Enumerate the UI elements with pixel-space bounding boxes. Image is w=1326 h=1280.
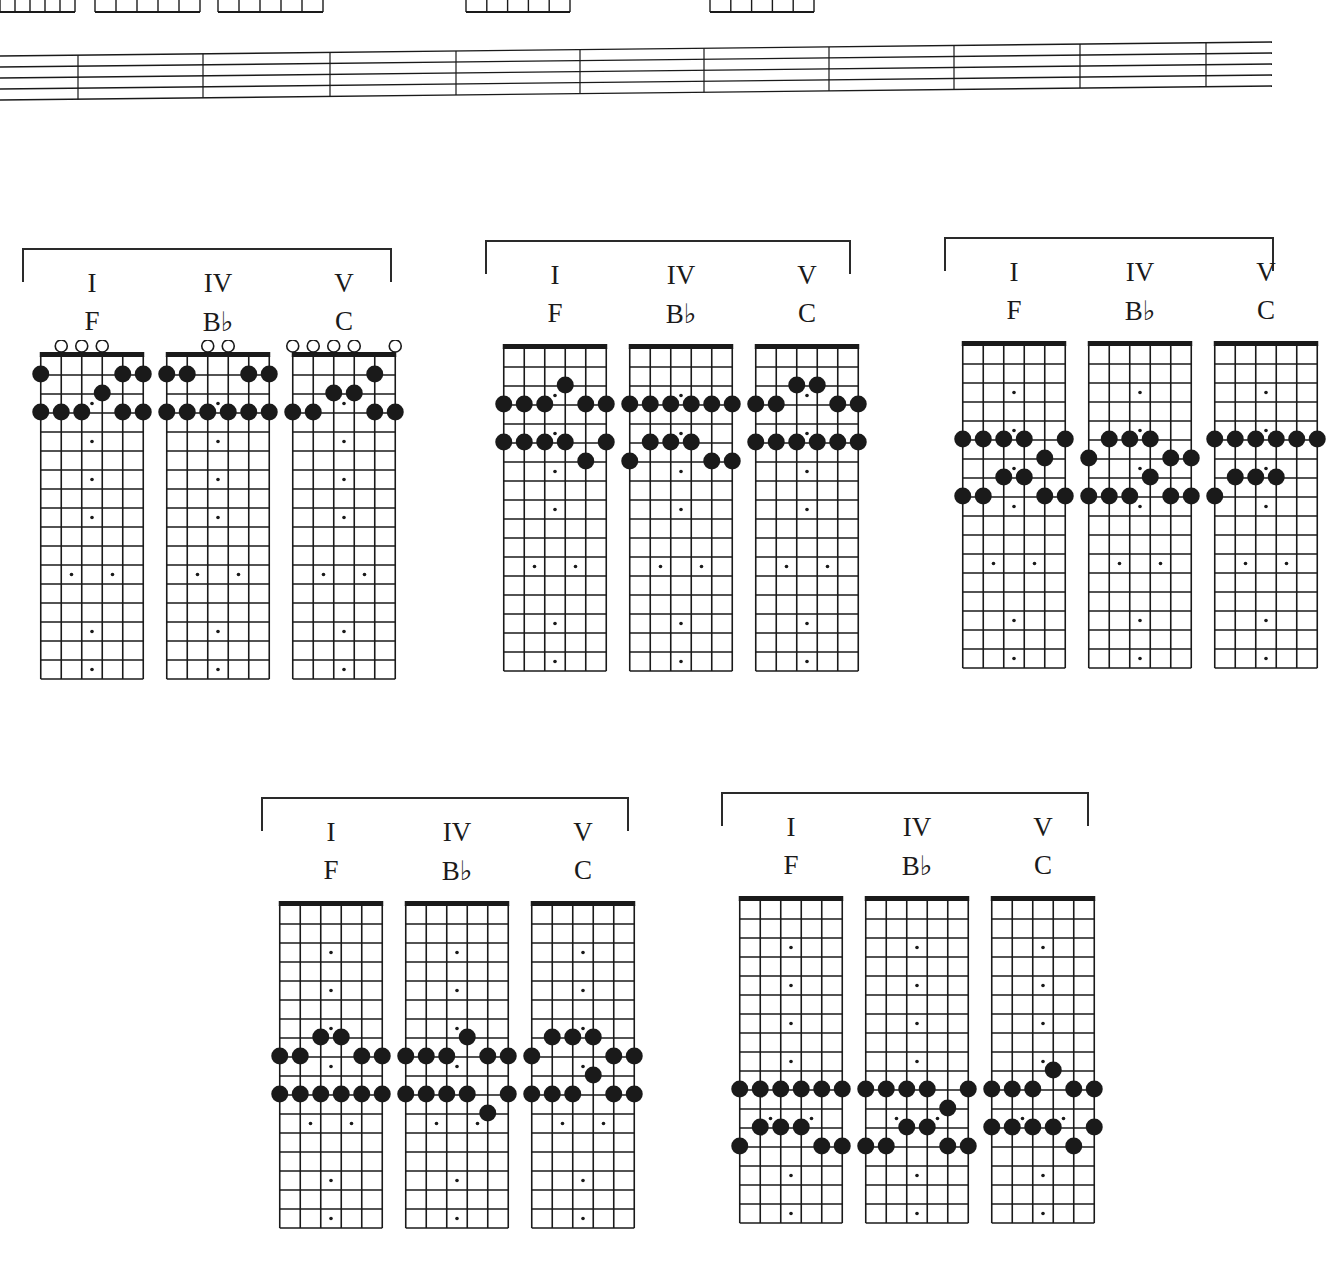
inlay-dot	[216, 440, 220, 444]
note-dot	[1080, 450, 1097, 467]
inlay-dot	[553, 432, 557, 436]
inlay-dot	[455, 1217, 459, 1221]
fretboard	[1206, 329, 1326, 682]
note-dot	[1065, 1081, 1082, 1098]
fretboard	[731, 884, 851, 1237]
chord-name: B♭	[621, 298, 741, 330]
note-dot	[829, 396, 846, 413]
chord-name: B♭	[1080, 295, 1200, 327]
roman-numeral: I	[954, 257, 1074, 288]
open-string-marker	[202, 340, 214, 352]
inlay-dot	[216, 668, 220, 672]
note-dot	[135, 404, 152, 421]
note-dot	[752, 1081, 769, 1098]
inlay-dot	[1012, 505, 1016, 509]
inlay-dot	[826, 565, 830, 569]
note-dot	[850, 396, 867, 413]
note-dot	[271, 1086, 288, 1103]
inlay-dot	[435, 1122, 439, 1126]
inlay-dot	[329, 989, 333, 993]
note-dot	[878, 1138, 895, 1155]
chord-name: B♭	[397, 855, 517, 887]
note-dot	[662, 396, 679, 413]
nut	[503, 344, 608, 349]
inlay-dot	[1012, 657, 1016, 661]
chord-diagram-i: IF	[271, 797, 391, 1248]
note-dot	[1004, 1081, 1021, 1098]
chord-name: F	[32, 306, 152, 337]
inlay-dot	[789, 984, 793, 988]
note-dot	[1086, 1119, 1103, 1136]
nut	[531, 901, 636, 906]
inlay-dot	[1264, 467, 1268, 471]
inlay-dot	[789, 1212, 793, 1216]
note-dot	[544, 1029, 561, 1046]
note-dot	[1121, 431, 1138, 448]
inlay-dot	[895, 1117, 899, 1121]
inlay-dot	[553, 470, 557, 474]
inlay-dot	[90, 402, 94, 406]
note-dot	[292, 1048, 309, 1065]
note-dot	[1057, 431, 1074, 448]
inlay-dot	[342, 630, 346, 634]
note-dot	[577, 396, 594, 413]
open-string-marker	[96, 340, 108, 352]
note-dot	[333, 1029, 350, 1046]
inlay-dot	[679, 622, 683, 626]
inlay-dot	[915, 946, 919, 950]
fretboard	[747, 332, 867, 685]
note-dot	[975, 488, 992, 505]
inlay-dot	[1062, 1117, 1066, 1121]
open-string-marker	[287, 340, 299, 352]
nut	[292, 352, 397, 357]
inlay-dot	[1033, 562, 1037, 566]
note-dot	[919, 1119, 936, 1136]
inlay-dot	[785, 565, 789, 569]
open-string-marker	[389, 340, 401, 352]
inlay-dot	[915, 1174, 919, 1178]
inlay-dot	[342, 478, 346, 482]
chord-diagram-iv: IVB♭	[1080, 237, 1200, 688]
roman-numeral: I	[32, 268, 152, 299]
note-dot	[793, 1081, 810, 1098]
inlay-dot	[1118, 562, 1122, 566]
note-dot	[939, 1138, 956, 1155]
nut	[962, 341, 1067, 346]
nut	[1214, 341, 1319, 346]
note-dot	[536, 434, 553, 451]
note-dot	[325, 385, 342, 402]
roman-numeral: V	[747, 260, 867, 291]
chord-name: C	[523, 855, 643, 886]
note-dot	[374, 1086, 391, 1103]
note-dot	[459, 1029, 476, 1046]
note-dot	[366, 404, 383, 421]
note-dot	[626, 1086, 643, 1103]
note-dot	[500, 1086, 517, 1103]
inlay-dot	[602, 1122, 606, 1126]
fretboard	[621, 332, 741, 685]
inlay-dot	[90, 630, 94, 634]
note-dot	[516, 434, 533, 451]
note-dot	[438, 1048, 455, 1065]
note-dot	[768, 434, 785, 451]
note-dot	[1045, 1062, 1062, 1079]
note-dot	[312, 1029, 329, 1046]
fretboard	[271, 889, 391, 1242]
inlay-dot	[342, 402, 346, 406]
nut	[1088, 341, 1193, 346]
chord-diagram-v: VC	[983, 792, 1103, 1243]
chord-diagram-v: VC	[747, 240, 867, 691]
note-dot	[1288, 431, 1305, 448]
nut	[865, 896, 970, 901]
roman-numeral: IV	[857, 812, 977, 843]
inlay-dot	[342, 668, 346, 672]
chord-diagram-iv: IVB♭	[857, 792, 977, 1243]
note-dot	[829, 434, 846, 451]
inlay-dot	[350, 1122, 354, 1126]
note-dot	[1057, 488, 1074, 505]
note-dot	[495, 396, 512, 413]
inlay-dot	[90, 440, 94, 444]
inlay-dot	[1138, 391, 1142, 395]
chord-diagram-i: IF	[495, 240, 615, 691]
inlay-dot	[553, 394, 557, 398]
